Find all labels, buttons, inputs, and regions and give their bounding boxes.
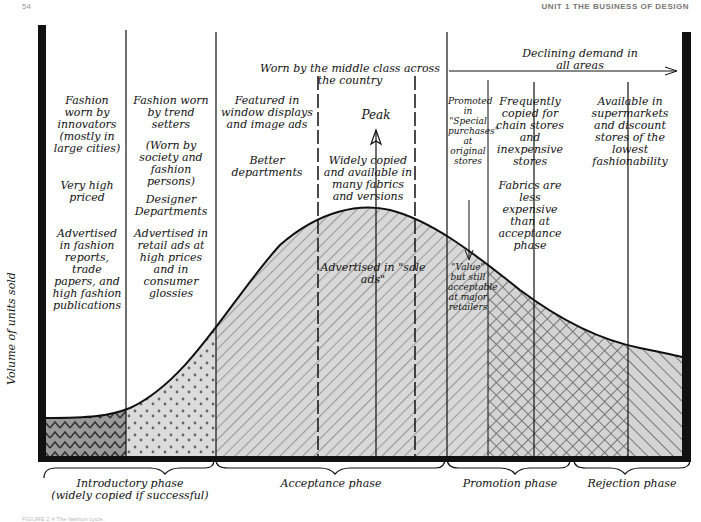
declining-demand-annotation: Declining demand in all areas bbox=[520, 48, 640, 72]
designer-departments-text: Designer Departments bbox=[128, 194, 214, 218]
phase-introductory: Introductory phase (widely copied if suc… bbox=[44, 478, 216, 502]
retail-ads-text: Advertised in retail ads at high prices … bbox=[128, 228, 214, 300]
innovators-text: Fashion worn by innovators (mostly in la… bbox=[50, 95, 124, 155]
window-displays-text: Featured in window displays and image ad… bbox=[218, 95, 316, 131]
y-axis-label: Volume of units sold bbox=[6, 272, 18, 385]
society-text: (Worn by society and fashion persons) bbox=[128, 140, 214, 188]
sale-ads-text: Advertised in "sale ads" bbox=[318, 262, 428, 286]
phase-acceptance: Acceptance phase bbox=[216, 478, 446, 490]
peak-label: Peak bbox=[356, 109, 396, 121]
figure-caption: FIGURE 2.4 The fashion cycle. bbox=[22, 516, 105, 522]
better-departments-text: Better departments bbox=[218, 155, 316, 179]
fashion-reports-text: Advertised in fashion reports, trade pap… bbox=[50, 228, 124, 312]
widely-copied-text: Widely copied and available in many fabr… bbox=[322, 155, 414, 203]
special-purchases-text: Promoted in "Special purchases" at origi… bbox=[448, 96, 488, 166]
value-text: "Value" but still acceptable at major re… bbox=[448, 262, 488, 312]
supermarkets-text: Available in supermarkets and discount s… bbox=[580, 96, 680, 168]
trend-setters-text: Fashion worn by trend setters bbox=[128, 95, 214, 131]
phase-introductory-sublabel: (widely copied if successful) bbox=[44, 490, 216, 502]
phase-promotion: Promotion phase bbox=[447, 478, 573, 490]
less-expensive-fabrics-text: Fabrics are less expensive than at accep… bbox=[490, 180, 570, 252]
middle-class-annotation: Worn by the middle class across the coun… bbox=[250, 63, 450, 87]
very-high-priced-text: Very high priced bbox=[50, 180, 124, 204]
phase-rejection: Rejection phase bbox=[574, 478, 690, 490]
chain-stores-text: Frequently copied for chain stores and i… bbox=[490, 96, 570, 168]
